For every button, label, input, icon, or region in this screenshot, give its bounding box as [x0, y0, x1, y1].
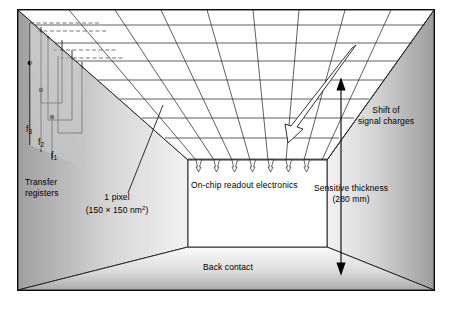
pixel-label-line2: (150 × 150 nm2) [78, 203, 156, 216]
figure-root: f3 f2 f1 Transfer registers 1 pixel (150… [0, 0, 452, 310]
transfer-registers-label: Transfer registers [25, 177, 59, 198]
phase-label-3: f3 [26, 124, 32, 138]
readout-electronics-label: On-chip readout electronics [191, 180, 298, 191]
phase-label-1: f1 [51, 150, 57, 164]
transfer-registers-line2: registers [25, 188, 59, 199]
back-contact-label: Back contact [178, 262, 278, 273]
pixel-label-line1: 1 pixel [78, 192, 156, 203]
shift-of-signal-charges-label: Shift of signal charges [340, 105, 432, 126]
thickness-label-line1: Sensitive thickness [304, 183, 398, 194]
sensitive-thickness-label: Sensitive thickness (280 mm) [304, 183, 398, 204]
phase-label-2: f2 [38, 137, 44, 151]
shift-label-line1: Shift of [340, 105, 432, 116]
thickness-label-line2: (280 mm) [304, 194, 398, 205]
pixel-label: 1 pixel (150 × 150 nm2) [78, 192, 156, 215]
shift-label-line2: signal charges [340, 116, 432, 127]
transfer-registers-line1: Transfer [25, 177, 59, 188]
